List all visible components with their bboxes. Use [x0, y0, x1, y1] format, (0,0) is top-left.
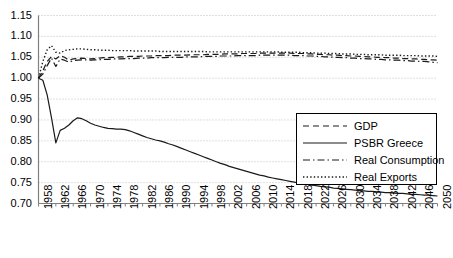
legend-item-psbr-greece[interactable]: PSBR Greece — [303, 134, 423, 151]
y-axis-tick-label: 1.05 — [2, 51, 32, 62]
legend-item-real-consumption[interactable]: Real Consumption — [303, 151, 445, 168]
y-axis-tick-label: 0.90 — [2, 114, 32, 125]
series-line-real-consumption — [39, 55, 438, 78]
series-line-real-exports — [39, 46, 438, 79]
y-axis-tick-label: 1.00 — [2, 72, 32, 83]
x-axis-tick-label: 1974 — [112, 184, 123, 208]
x-axis-tick-label: 2026 — [337, 184, 348, 208]
x-axis-tick-label: 1970 — [95, 184, 106, 208]
legend-label-gdp: GDP — [354, 120, 378, 132]
legend-swatch-dashed — [303, 120, 347, 132]
x-axis-tick-label: 1990 — [181, 184, 192, 208]
x-axis-tick-label: 2018 — [303, 184, 314, 208]
x-axis-tick-label: 1986 — [164, 184, 175, 208]
legend-item-real-exports[interactable]: Real Exports — [303, 168, 417, 185]
x-axis-tick-label: 2010 — [268, 184, 279, 208]
legend-label-real-exports: Real Exports — [354, 171, 417, 183]
x-axis-tick-label: 2046 — [424, 184, 435, 208]
x-axis-tick-label: 1998 — [216, 184, 227, 208]
y-axis-tick-label: 0.85 — [2, 135, 32, 146]
y-axis-tick-label: 0.70 — [2, 198, 32, 209]
legend-swatch-dotted — [303, 171, 347, 183]
y-axis-tick-label: 1.10 — [2, 30, 32, 41]
chart-legend: GDP PSBR Greece Real Consumption Real Ex… — [296, 113, 437, 185]
x-axis-tick-label: 2014 — [285, 184, 296, 208]
y-axis-tick-label: 1.15 — [2, 10, 32, 21]
x-axis-tick-label: 1994 — [199, 184, 210, 208]
x-axis-tick-label: 1982 — [147, 184, 158, 208]
x-axis-tick-label: 1958 — [43, 184, 54, 208]
x-axis-tick-label: 2034 — [372, 184, 383, 208]
legend-swatch-dashdot — [303, 154, 347, 166]
x-axis-tick-label: 2030 — [355, 184, 366, 208]
x-axis-tick-label: 2002 — [233, 184, 244, 208]
legend-item-gdp[interactable]: GDP — [303, 117, 378, 134]
x-axis-tick-label: 2022 — [320, 184, 331, 208]
y-axis-tick-label: 0.80 — [2, 156, 32, 167]
y-axis-tick-label: 0.75 — [2, 177, 32, 188]
x-axis-tick-label: 1978 — [129, 184, 140, 208]
x-axis-tick-label: 2050 — [442, 184, 453, 208]
y-axis-tick-label: 0.95 — [2, 93, 32, 104]
x-axis-tick-label: 2038 — [389, 184, 400, 208]
x-axis-tick-label: 1966 — [77, 184, 88, 208]
x-axis-tick-label: 2042 — [407, 184, 418, 208]
legend-swatch-solid — [303, 137, 347, 149]
legend-label-psbr-greece: PSBR Greece — [354, 137, 423, 149]
x-axis-tick-label: 2006 — [251, 184, 262, 208]
x-axis-tick-label: 1962 — [60, 184, 71, 208]
series-line-gdp — [39, 53, 438, 78]
legend-label-real-consumption: Real Consumption — [354, 154, 445, 166]
